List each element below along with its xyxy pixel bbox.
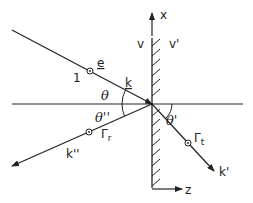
angle-arc-reflected [122, 104, 125, 116]
transmitted-ray [152, 104, 214, 171]
incident-wave-label: k [125, 76, 132, 90]
reflected-wave-label: k'' [66, 147, 80, 161]
angle-reflected-label: θ'' [95, 110, 110, 125]
medium-left-label: v [137, 37, 144, 51]
gamma-transmitted-label: Γt [194, 131, 205, 147]
angle-incident-label: θ [101, 88, 109, 103]
angle-arc-incident [122, 90, 126, 104]
gamma-reflected-label: Γr [101, 127, 112, 143]
angle-transmitted-label: θ' [166, 113, 177, 128]
medium-right-label: v' [169, 37, 179, 51]
transmitted-wave-label: k' [219, 165, 229, 179]
interface-wall [152, 38, 160, 188]
polarization-label: e [97, 56, 104, 70]
x-axis-label: x [160, 8, 167, 22]
incident-index-label: 1 [73, 71, 81, 85]
interface-diagram: x z v v' 1 e k k'' k' θ θ'' θ' Γr Γt [0, 0, 253, 203]
incident-ray [12, 30, 152, 104]
reflected-ray [12, 104, 152, 166]
z-axis-label: z [185, 183, 191, 197]
